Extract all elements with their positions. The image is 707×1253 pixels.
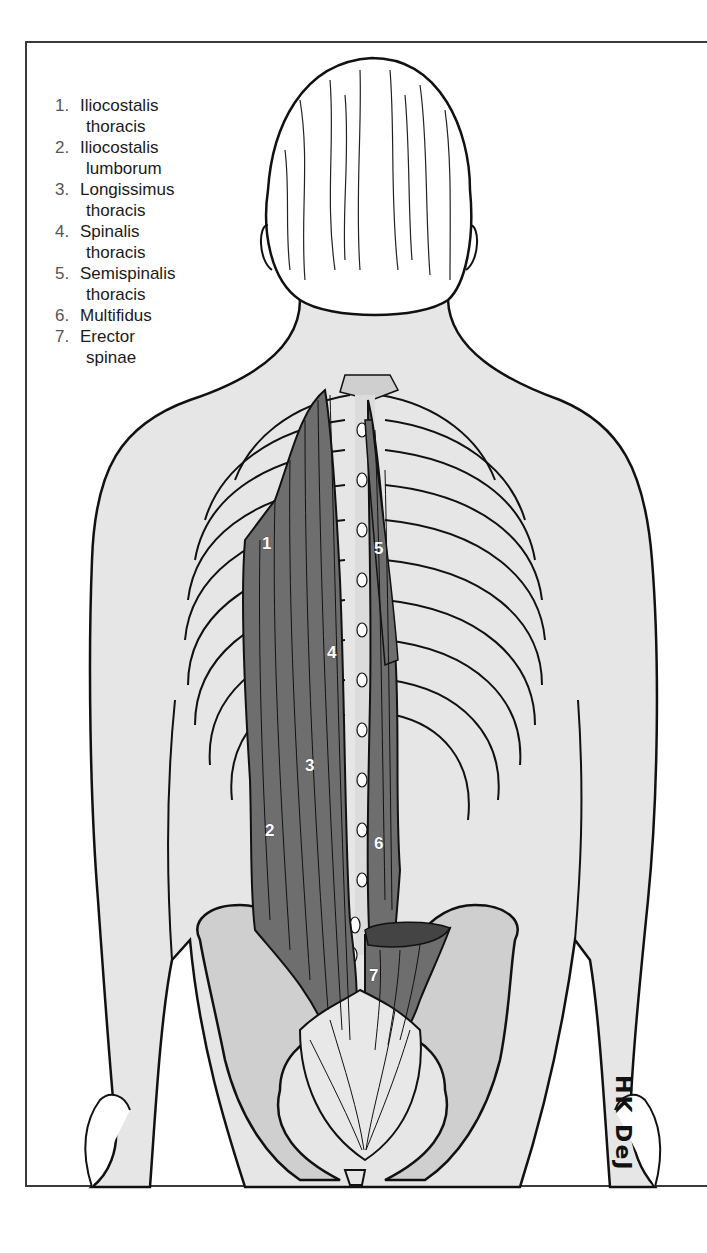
legend-item: 3. Longissimusthoracis — [55, 179, 175, 221]
legend-item: 7. Erectorspinae — [55, 326, 175, 368]
legend-label: Spinalis — [80, 221, 146, 242]
artist-signature: HK DeJ — [611, 1075, 636, 1172]
label-5: 5 — [374, 539, 383, 558]
legend-label: Longissimus — [80, 179, 175, 200]
legend-number: 1. — [55, 95, 80, 137]
legend-number: 2. — [55, 137, 80, 179]
label-1: 1 — [262, 534, 271, 553]
label-4: 4 — [327, 643, 337, 662]
legend-item: 1. Iliocostalisthoracis — [55, 95, 175, 137]
legend-label: Erector — [80, 326, 136, 347]
legend-item: 4. Spinalisthoracis — [55, 221, 175, 263]
label-7: 7 — [369, 966, 378, 985]
label-6: 6 — [374, 834, 383, 853]
label-2: 2 — [265, 821, 274, 840]
legend-number: 3. — [55, 179, 80, 221]
legend-label-line2: lumborum — [80, 158, 162, 179]
legend-label: Iliocostalis — [80, 137, 162, 158]
legend-label-line2: spinae — [80, 347, 136, 368]
legend-label-line2: thoracis — [80, 242, 146, 263]
label-3: 3 — [305, 756, 314, 775]
legend-number: 4. — [55, 221, 80, 263]
legend-label: Semispinalis — [80, 263, 175, 284]
legend-label: Iliocostalis — [80, 95, 158, 116]
head — [261, 58, 477, 315]
legend-label-line2: thoracis — [80, 116, 158, 137]
legend-item: 2. Iliocostalislumborum — [55, 137, 175, 179]
legend-number: 7. — [55, 326, 80, 368]
legend: 1. Iliocostalisthoracis 2. Iliocostalisl… — [55, 95, 175, 368]
legend-label: Multifidus — [80, 305, 152, 326]
legend-item: 6. Multifidus — [55, 305, 175, 326]
legend-number: 6. — [55, 305, 80, 326]
legend-label-line2: thoracis — [80, 284, 175, 305]
legend-number: 5. — [55, 263, 80, 305]
legend-label-line2: thoracis — [80, 200, 175, 221]
legend-item: 5. Semispinalisthoracis — [55, 263, 175, 305]
